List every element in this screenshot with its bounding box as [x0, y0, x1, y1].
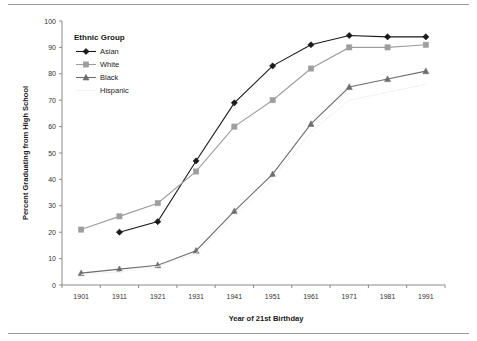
data-point-marker — [117, 214, 122, 219]
data-point-marker — [347, 45, 352, 50]
data-point-marker — [83, 48, 89, 54]
legend-title: Ethnic Group — [74, 33, 125, 42]
x-axis-tick-label: 1931 — [188, 293, 204, 300]
series-layer — [78, 32, 429, 275]
data-point-marker — [385, 45, 390, 50]
y-axis-tick-label: 100 — [44, 18, 56, 25]
chart-figure: 0102030405060708090100190119111921193119… — [0, 0, 477, 341]
y-axis-title: Percent Graduating from High School — [21, 86, 30, 220]
axis-title-layer: Year of 21st Birthday Percent Graduating… — [21, 86, 304, 323]
data-point-marker — [83, 62, 88, 67]
legend-item-label: Black — [100, 73, 119, 82]
series-black — [78, 68, 429, 276]
legend-item-label: White — [100, 60, 119, 69]
legend-item-label: Asian — [100, 47, 119, 56]
series-line — [81, 45, 426, 230]
y-axis-tick-label: 0 — [52, 282, 56, 289]
legend-item-asian[interactable]: Asian — [76, 47, 119, 56]
x-axis-title: Year of 21st Birthday — [229, 314, 304, 323]
legend-item-label: Hispanic — [100, 86, 129, 95]
y-axis-tick-label: 90 — [48, 44, 56, 51]
data-point-marker — [79, 227, 84, 232]
data-point-marker — [423, 42, 428, 47]
line-chart: 0102030405060708090100190119111921193119… — [0, 0, 477, 341]
chart-canvas: 0102030405060708090100190119111921193119… — [0, 0, 477, 341]
y-axis-tick-label: 60 — [48, 123, 56, 130]
x-axis-tick-label: 1981 — [380, 293, 396, 300]
y-axis-tick-label: 50 — [48, 150, 56, 157]
data-point-marker — [155, 201, 160, 206]
data-point-marker — [308, 42, 314, 48]
data-point-marker — [270, 98, 275, 103]
x-axis-tick-label: 1961 — [303, 293, 319, 300]
x-axis-tick-label: 1971 — [341, 293, 357, 300]
legend-item-hispanic[interactable]: Hispanic — [76, 86, 129, 95]
data-point-marker — [384, 34, 390, 40]
x-axis-tick-label: 1951 — [265, 293, 281, 300]
data-point-marker — [346, 32, 352, 38]
legend-item-white[interactable]: White — [76, 60, 119, 69]
x-axis-tick-label: 1901 — [73, 293, 89, 300]
x-axis-tick-label: 1921 — [150, 293, 166, 300]
data-point-marker — [193, 169, 198, 174]
y-axis-tick-label: 70 — [48, 97, 56, 104]
data-point-marker — [193, 158, 199, 164]
data-point-marker — [155, 219, 161, 225]
x-axis-tick-label: 1991 — [418, 293, 434, 300]
y-axis-tick-label: 40 — [48, 176, 56, 183]
y-axis-tick-label: 30 — [48, 202, 56, 209]
data-point-marker — [232, 124, 237, 129]
y-axis-tick-label: 80 — [48, 70, 56, 77]
x-axis-tick-label: 1911 — [112, 293, 127, 300]
data-point-marker — [423, 68, 429, 74]
data-point-marker — [423, 34, 429, 40]
y-axis-tick-label: 10 — [48, 255, 56, 262]
legend-layer: Ethnic GroupAsianWhiteBlackHispanic — [74, 33, 129, 95]
legend-item-black[interactable]: Black — [76, 73, 119, 82]
series-line — [81, 71, 426, 273]
data-point-marker — [116, 229, 122, 235]
data-point-marker — [308, 66, 313, 71]
x-axis-tick-label: 1941 — [227, 293, 243, 300]
series-asian — [116, 32, 429, 235]
series-white — [79, 42, 429, 232]
y-axis-tick-label: 20 — [48, 229, 56, 236]
